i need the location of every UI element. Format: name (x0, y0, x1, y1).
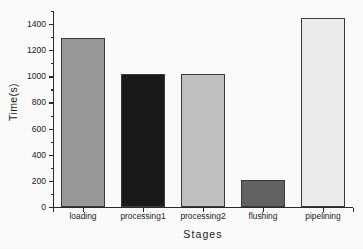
bar-processing2 (181, 74, 225, 207)
x-category-label: processing1 (113, 211, 173, 221)
x-category-label: pipelining (293, 211, 353, 221)
x-category-label: processing2 (173, 211, 233, 221)
bar-loading (61, 38, 105, 207)
x-category-label: loading (53, 211, 113, 221)
bar-pipelining (301, 18, 345, 207)
bar-flushing (241, 180, 285, 207)
x-axis-title: Stages (53, 228, 353, 240)
y-axis-title: Time(s) (7, 67, 19, 137)
y-tick-label: 400 (32, 150, 46, 160)
y-tick-label: 1400 (27, 19, 46, 29)
y-tick-label: 600 (32, 124, 46, 134)
y-tick-label: 1000 (27, 71, 46, 81)
x-boundary-tick-mark (353, 208, 354, 212)
bar-processing1 (121, 74, 165, 207)
y-tick-label: 800 (32, 97, 46, 107)
bar-chart: 0200400600800100012001400 loadingprocess… (0, 0, 363, 249)
y-tick-label: 1200 (27, 45, 46, 55)
y-tick-label: 0 (41, 202, 46, 212)
plot-area (53, 11, 353, 207)
y-tick-label: 200 (32, 176, 46, 186)
x-category-label: flushing (233, 211, 293, 221)
